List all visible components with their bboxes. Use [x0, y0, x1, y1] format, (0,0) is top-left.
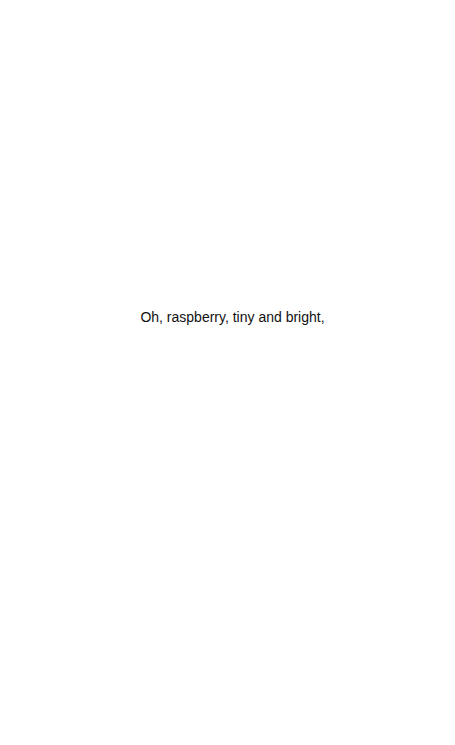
document-page: Oh, raspberry, tiny and bright,	[0, 0, 455, 745]
poem-line: Oh, raspberry, tiny and bright,	[0, 308, 455, 326]
